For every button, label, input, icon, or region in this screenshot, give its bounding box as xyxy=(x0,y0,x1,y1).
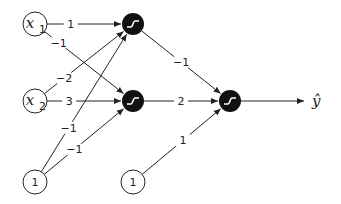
input-node-label: x xyxy=(26,91,35,109)
input-node-label: x xyxy=(26,14,35,32)
neural-network-diagram: 1−1−23−1−1−121 ŷx1x211 xyxy=(0,0,341,204)
edge-b1-h2 xyxy=(44,109,124,175)
edge-weight-label: −2 xyxy=(56,72,72,85)
edge-weight-label: −1 xyxy=(61,122,77,135)
edge-weight-label: −1 xyxy=(66,143,82,156)
output-label-yhat: ŷ xyxy=(311,92,321,110)
edge-weight-label: 2 xyxy=(178,95,185,108)
edge-weight-label: 1 xyxy=(180,134,187,147)
edge-b1-h1 xyxy=(41,34,126,172)
input-node-subscript: 1 xyxy=(39,23,46,36)
bias-node-label: 1 xyxy=(130,176,137,189)
bias-node-label: 1 xyxy=(32,176,39,189)
edge-weight-label: 1 xyxy=(67,18,74,31)
edge-weight-label: −1 xyxy=(51,37,67,50)
input-node-subscript: 2 xyxy=(39,100,46,113)
edge-weight-label: −1 xyxy=(173,56,189,69)
edge-weight-label: 3 xyxy=(66,95,73,108)
